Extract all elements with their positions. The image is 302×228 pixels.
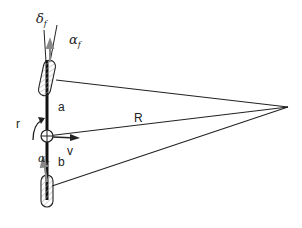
front-heading-line-delta: [44, 30, 46, 62]
label-delta-f: δf: [36, 11, 49, 28]
label-a: a: [58, 100, 65, 114]
rear-radius-line: [52, 107, 288, 186]
label-v: v: [67, 144, 73, 158]
vehicle-bicycle-model-diagram: δf αf αr a b r R v: [0, 0, 302, 228]
label-b: b: [58, 155, 65, 169]
label-r: r: [16, 117, 20, 131]
label-R: R: [134, 111, 143, 125]
front-radius-line: [56, 80, 288, 107]
radius-lines: [47, 80, 288, 186]
front-wheel: [37, 59, 56, 97]
cg-radius-line-R: [47, 107, 288, 136]
center-of-gravity-marker: [41, 130, 53, 142]
label-alpha-f: αf: [69, 32, 83, 49]
